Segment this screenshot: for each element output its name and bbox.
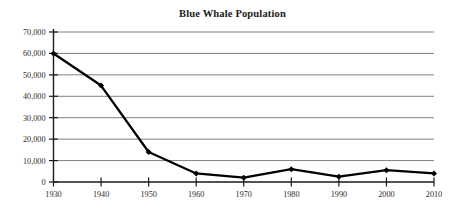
gridlines xyxy=(54,32,435,161)
data-point-marker xyxy=(288,166,294,172)
x-tick-label: 1990 xyxy=(331,190,347,199)
y-tick-label: 70,000 xyxy=(23,28,46,37)
y-axis-tick-labels: 010,00020,00030,00040,00050,00060,00070,… xyxy=(23,28,46,187)
x-tick-label: 1940 xyxy=(93,190,109,199)
data-series-line xyxy=(54,53,435,177)
x-tick-label: 2000 xyxy=(378,190,394,199)
y-tick-label: 50,000 xyxy=(23,71,46,80)
data-point-markers xyxy=(51,50,438,180)
y-tick-label: 0 xyxy=(41,178,45,187)
x-tick-label: 2010 xyxy=(426,190,442,199)
line-chart-plot: 010,00020,00030,00040,00050,00060,00070,… xyxy=(0,0,465,223)
x-tick-label: 1980 xyxy=(283,190,299,199)
y-tick-label: 30,000 xyxy=(23,114,46,123)
y-tick-label: 60,000 xyxy=(23,49,46,58)
data-point-marker xyxy=(241,175,247,181)
data-point-marker xyxy=(431,170,437,176)
x-tick-label: 1930 xyxy=(45,190,61,199)
y-tick-label: 40,000 xyxy=(23,92,46,101)
x-tick-label: 1950 xyxy=(140,190,156,199)
chart-container: Blue Whale Population 010,00020,00030,00… xyxy=(0,0,465,223)
x-tick-label: 1960 xyxy=(188,190,204,199)
data-point-marker xyxy=(383,167,389,173)
y-tick-label: 10,000 xyxy=(23,157,46,166)
data-point-marker xyxy=(336,174,342,180)
y-tick-label: 20,000 xyxy=(23,135,46,144)
x-tick-label: 1970 xyxy=(236,190,252,199)
x-axis-tick-labels: 193019401950196019701980199020002010 xyxy=(45,190,442,199)
